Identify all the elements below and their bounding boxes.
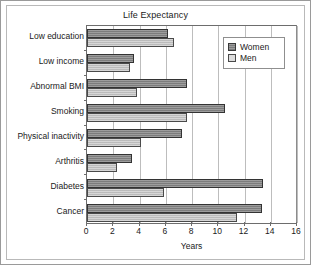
chart-title: Life Expectancy xyxy=(1,10,310,20)
bar-group xyxy=(87,101,296,126)
legend-item-women[interactable]: Women xyxy=(228,42,280,52)
x-axis-tick-label: 16 xyxy=(284,226,308,236)
y-axis-category-labels: Low educationLow incomeAbnormal BMISmoki… xyxy=(1,25,84,224)
bar-men xyxy=(87,63,130,72)
bar-men xyxy=(87,38,174,47)
bar-men xyxy=(87,113,187,122)
x-axis-tick-label: 0 xyxy=(74,226,98,236)
bar-women xyxy=(87,54,134,63)
bar-men xyxy=(87,138,141,147)
legend-item-men[interactable]: Men xyxy=(228,53,280,63)
x-axis-tick xyxy=(270,222,271,226)
gridline xyxy=(297,26,298,223)
x-axis-tick-label: 12 xyxy=(232,226,256,236)
bar-women xyxy=(87,179,263,188)
x-axis-tick-label: 6 xyxy=(153,226,177,236)
y-axis-category-label: Low education xyxy=(1,31,84,41)
legend-label: Women xyxy=(240,42,269,52)
bar-group xyxy=(87,76,296,101)
x-axis-tick xyxy=(217,222,218,226)
legend-swatch-icon xyxy=(228,43,236,51)
bar-men xyxy=(87,163,117,172)
legend-label: Men xyxy=(240,53,257,63)
x-axis-tick-label: 4 xyxy=(127,226,151,236)
x-axis-tick-labels: 0246810121416 xyxy=(86,226,297,240)
bar-men xyxy=(87,188,164,197)
bar-women xyxy=(87,204,262,213)
bar-men xyxy=(87,213,237,222)
bar-women xyxy=(87,29,168,38)
bar-women xyxy=(87,104,225,113)
x-axis-title: Years xyxy=(86,241,297,251)
x-axis-tick xyxy=(244,222,245,226)
bar-women xyxy=(87,79,187,88)
x-axis-tick xyxy=(86,222,87,226)
x-axis-tick xyxy=(191,222,192,226)
chart-legend: WomenMen xyxy=(223,37,285,69)
bar-group xyxy=(87,126,296,151)
chart-figure: Life Expectancy Low educationLow incomeA… xyxy=(0,0,311,265)
y-axis-category-label: Smoking xyxy=(1,106,84,116)
x-axis-tick xyxy=(139,222,140,226)
bar-group xyxy=(87,150,296,175)
bar-women xyxy=(87,154,132,163)
x-axis-tick-label: 10 xyxy=(205,226,229,236)
x-axis-tick xyxy=(112,222,113,226)
x-axis-tick-label: 2 xyxy=(100,226,124,236)
y-axis-category-label: Arthritis xyxy=(1,156,84,166)
x-axis-tick xyxy=(165,222,166,226)
bar-men xyxy=(87,88,137,97)
x-axis-tick-label: 8 xyxy=(179,226,203,236)
x-axis-tick-label: 14 xyxy=(258,226,282,236)
legend-swatch-icon xyxy=(228,54,236,62)
x-axis-tick xyxy=(296,222,297,226)
y-axis-category-label: Physical inactivity xyxy=(1,131,84,141)
y-axis-category-label: Cancer xyxy=(1,206,84,216)
y-axis-category-label: Diabetes xyxy=(1,181,84,191)
bar-women xyxy=(87,129,182,138)
bar-group xyxy=(87,175,296,200)
y-axis-category-label: Low income xyxy=(1,56,84,66)
y-axis-category-label: Abnormal BMI xyxy=(1,81,84,91)
